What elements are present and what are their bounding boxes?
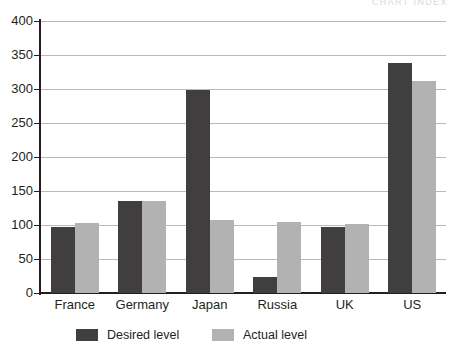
gridline	[41, 55, 446, 56]
gridline	[41, 259, 446, 260]
gridline	[41, 123, 446, 124]
bar[interactable]	[142, 201, 166, 293]
bar-group	[253, 21, 301, 293]
bar[interactable]	[412, 81, 436, 293]
legend-swatch-icon	[76, 329, 98, 341]
y-axis-tick-label: 100	[3, 218, 33, 231]
bar-group	[321, 21, 369, 293]
bar[interactable]	[253, 277, 277, 293]
gridline	[41, 191, 446, 192]
bar[interactable]	[321, 227, 345, 293]
y-axis-tick-label: 250	[3, 116, 33, 129]
bar-group	[51, 21, 99, 293]
gridline	[41, 89, 446, 90]
y-axis-tick-label: 400	[3, 14, 33, 27]
y-axis-tick-label: 0	[3, 286, 33, 299]
plot-area	[41, 21, 446, 293]
bar-group	[186, 21, 234, 293]
y-axis-tick-label: 300	[3, 82, 33, 95]
y-axis-tick-label: 50	[3, 252, 33, 265]
x-axis-tick-label: US	[379, 298, 447, 312]
bar[interactable]	[277, 222, 301, 293]
legend-item[interactable]: Desired level	[76, 327, 179, 343]
gridline	[41, 157, 446, 158]
y-axis-tick-label: 150	[3, 184, 33, 197]
bar[interactable]	[118, 201, 142, 293]
gridline	[41, 21, 446, 22]
chart-legend: Desired levelActual level	[0, 327, 456, 347]
bar-group	[118, 21, 166, 293]
bar[interactable]	[186, 90, 210, 293]
x-axis-tick-label: Germany	[109, 298, 177, 312]
legend-item[interactable]: Actual level	[212, 327, 307, 343]
bar[interactable]	[345, 224, 369, 293]
bar-group	[388, 21, 436, 293]
bar[interactable]	[210, 220, 234, 293]
legend-swatch-icon	[212, 329, 234, 341]
legend-label: Actual level	[243, 329, 307, 342]
y-axis-tick-labels: 050100150200250300350400	[0, 0, 41, 352]
bar[interactable]	[51, 227, 75, 293]
bar[interactable]	[388, 63, 412, 293]
legend-label: Desired level	[107, 329, 179, 342]
y-axis-tick-label: 350	[3, 48, 33, 61]
bar[interactable]	[75, 223, 99, 293]
x-axis-tick-label: UK	[311, 298, 379, 312]
x-axis-tick-label: Russia	[244, 298, 312, 312]
y-axis-tick-label: 200	[3, 150, 33, 163]
running-head-text: CHART INDEX	[372, 0, 448, 6]
x-axis-tick-label: France	[41, 298, 109, 312]
bar-chart: CHART INDEX 050100150200250300350400 Des…	[0, 0, 456, 352]
x-axis-tick-label: Japan	[176, 298, 244, 312]
gridline	[41, 225, 446, 226]
